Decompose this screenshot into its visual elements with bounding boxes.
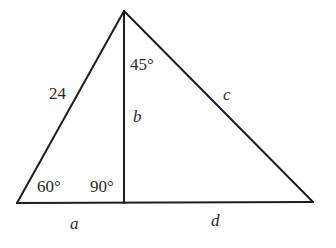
base-right-label: d (211, 211, 220, 230)
triangle-edges (17, 11, 313, 203)
triangle-diagram: 24 45° b c 60° 90° a d (0, 0, 336, 248)
right-side-label: c (223, 85, 231, 104)
right-angle-label: 90° (90, 177, 114, 196)
left-side-label: 24 (49, 84, 67, 103)
altitude-label: b (133, 107, 142, 126)
top-angle-label: 45° (130, 55, 154, 74)
labels: 24 45° b c 60° 90° a d (37, 55, 231, 233)
base-line (17, 202, 313, 203)
right-side-line (124, 11, 313, 202)
base-left-label: a (70, 214, 79, 233)
left-angle-label: 60° (37, 177, 61, 196)
left-side-line (17, 11, 124, 203)
